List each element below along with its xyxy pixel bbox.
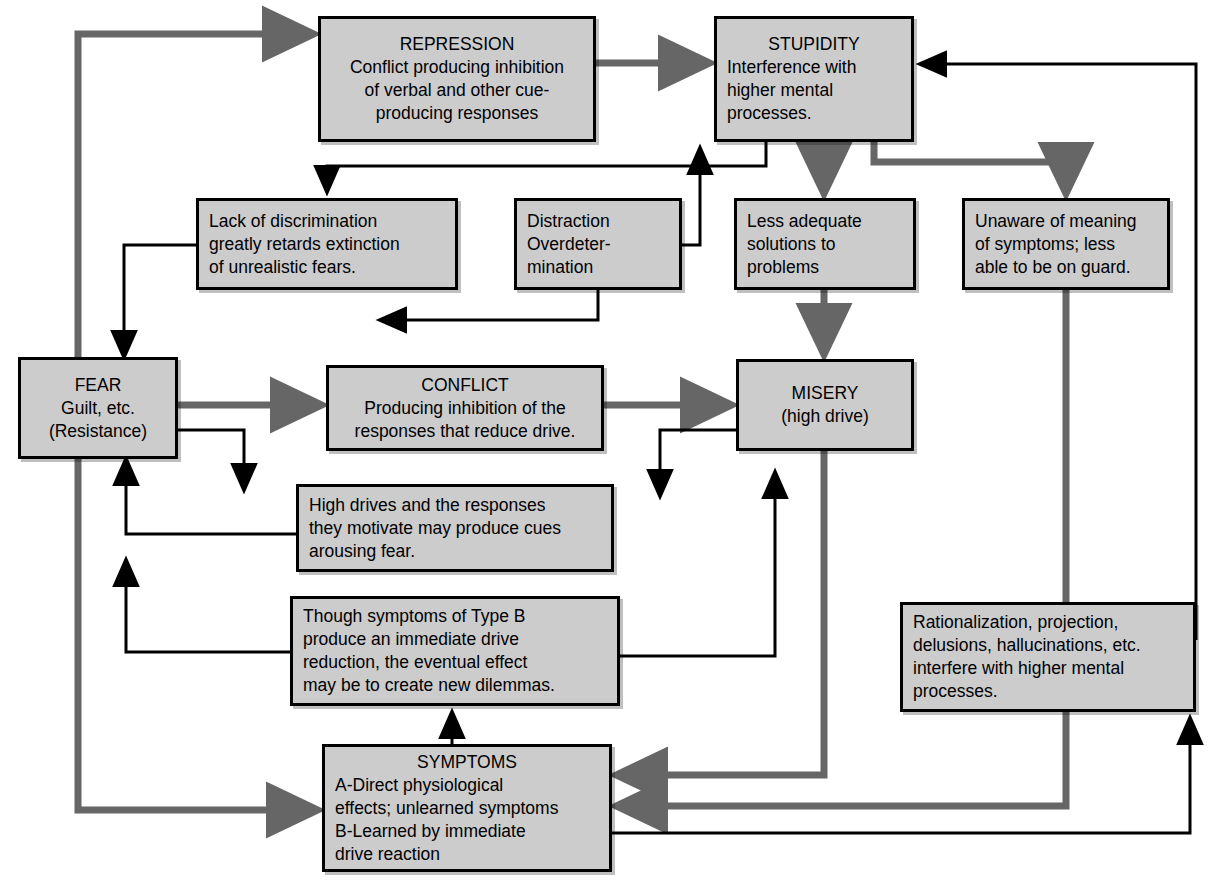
node-less-adequate-line-1: Less adequate xyxy=(747,210,903,233)
node-stupidity-line-2: higher mental xyxy=(727,79,901,102)
node-misery[interactable]: MISERY (high drive) xyxy=(736,359,914,451)
node-conflict[interactable]: CONFLICT Producing inhibition of the res… xyxy=(326,365,604,451)
node-unaware-line-3: able to be on guard. xyxy=(975,256,1157,279)
node-stupidity-line-3: processes. xyxy=(727,102,901,125)
edge-fear-to-high-drives xyxy=(178,430,244,490)
edge-type-b-to-fear xyxy=(126,560,290,652)
node-repression[interactable]: REPRESSION Conflict producing inhibition… xyxy=(318,16,596,142)
edge-misery-to-high-drives xyxy=(660,430,736,496)
node-symptoms-line-1: A-Direct physiological xyxy=(335,774,599,797)
node-symptoms[interactable]: SYMPTOMS A-Direct physiological effects;… xyxy=(322,744,612,872)
node-repression-title: REPRESSION xyxy=(331,33,583,56)
node-stupidity[interactable]: STUPIDITY Interference with higher menta… xyxy=(714,16,914,142)
node-conflict-title: CONFLICT xyxy=(339,374,591,397)
node-unaware-line-2: of symptoms; less xyxy=(975,233,1157,256)
edge-distraction-to-stupidity xyxy=(682,148,700,245)
node-distraction-line-2: Overdeter- xyxy=(527,233,669,256)
node-repression-line-2: of verbal and other cue- xyxy=(331,79,583,102)
node-symptoms-title: SYMPTOMS xyxy=(335,751,599,774)
node-lack-of-discrimination-line-2: greatly retards extinction xyxy=(209,233,445,256)
node-rationalization-line-3: interfere with higher mental xyxy=(913,657,1183,680)
edge-lack-of-discrimination-to-fear xyxy=(124,245,196,357)
node-stupidity-line-1: Interference with xyxy=(727,56,901,79)
thin-edges xyxy=(124,64,1196,833)
node-lack-of-discrimination-line-1: Lack of discrimination xyxy=(209,210,445,233)
node-less-adequate-solutions[interactable]: Less adequate solutions to problems xyxy=(734,198,916,290)
node-high-drives-line-3: arousing fear. xyxy=(309,540,601,563)
node-fear-line-2: (Resistance) xyxy=(31,420,165,443)
node-less-adequate-line-2: solutions to xyxy=(747,233,903,256)
node-high-drives[interactable]: High drives and the responses they motiv… xyxy=(296,484,614,572)
node-distraction-line-1: Distraction xyxy=(527,210,669,233)
node-unaware-line-1: Unaware of meaning xyxy=(975,210,1157,233)
node-type-b-line-3: reduction, the eventual effect xyxy=(303,651,607,674)
node-conflict-line-2: responses that reduce drive. xyxy=(339,420,591,443)
node-fear-title: FEAR xyxy=(31,374,165,397)
node-repression-line-1: Conflict producing inhibition xyxy=(331,56,583,79)
edge-fear-to-repression xyxy=(78,34,312,357)
edge-high-drives-to-fear xyxy=(126,459,296,534)
node-symptoms-line-4: drive reaction xyxy=(335,843,599,866)
node-type-b-line-4: may be to create new dilemmas. xyxy=(303,674,607,697)
edge-fear-to-symptoms xyxy=(78,459,316,810)
node-lack-of-discrimination[interactable]: Lack of discrimination greatly retards e… xyxy=(196,198,458,290)
node-stupidity-title: STUPIDITY xyxy=(727,33,901,56)
node-repression-line-3: producing responses xyxy=(331,102,583,125)
edge-stupidity-to-unaware xyxy=(874,142,1066,192)
edge-type-b-to-misery xyxy=(620,472,775,656)
flow-diagram: REPRESSION Conflict producing inhibition… xyxy=(0,0,1230,885)
node-fear[interactable]: FEAR Guilt, etc. (Resistance) xyxy=(18,357,178,459)
node-rationalization-line-4: processes. xyxy=(913,680,1183,703)
edge-distraction-to-conflict xyxy=(380,290,598,320)
node-high-drives-line-1: High drives and the responses xyxy=(309,494,601,517)
node-type-b-line-1: Though symptoms of Type B xyxy=(303,605,607,628)
node-misery-title: MISERY xyxy=(749,382,901,405)
node-rationalization-line-2: delusions, hallucinations, etc. xyxy=(913,634,1183,657)
node-symptoms-line-3: B-Learned by immediate xyxy=(335,820,599,843)
node-symptoms-line-2: effects; unlearned symptoms xyxy=(335,797,599,820)
edge-misery-to-symptoms xyxy=(618,451,824,775)
node-type-b-line-2: produce an immediate drive xyxy=(303,628,607,651)
node-misery-line-1: (high drive) xyxy=(749,405,901,428)
node-rationalization-line-1: Rationalization, projection, xyxy=(913,611,1183,634)
node-high-drives-line-2: they motivate may produce cues xyxy=(309,517,601,540)
node-lack-of-discrimination-line-3: of unrealistic fears. xyxy=(209,256,445,279)
node-less-adequate-line-3: problems xyxy=(747,256,903,279)
connector-layer xyxy=(0,0,1230,885)
node-fear-line-1: Guilt, etc. xyxy=(31,397,165,420)
node-distraction-line-3: mination xyxy=(527,256,669,279)
node-rationalization[interactable]: Rationalization, projection, delusions, … xyxy=(900,602,1196,712)
node-unaware-of-meaning[interactable]: Unaware of meaning of symptoms; less abl… xyxy=(962,198,1170,290)
node-conflict-line-1: Producing inhibition of the xyxy=(339,397,591,420)
edge-rationalization-to-stupidity xyxy=(920,64,1196,640)
node-type-b-symptoms[interactable]: Though symptoms of Type B produce an imm… xyxy=(290,596,620,706)
node-distraction-overdetermination[interactable]: Distraction Overdeter- mination xyxy=(514,198,682,290)
